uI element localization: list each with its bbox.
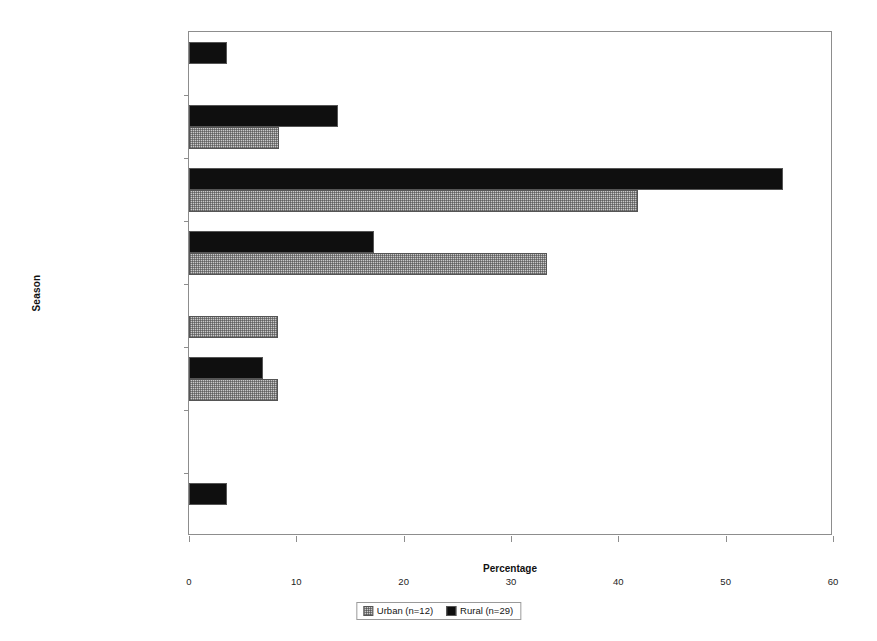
bar-urban: [189, 379, 278, 401]
x-axis-title: Percentage: [188, 563, 832, 574]
x-axis-tick: [618, 536, 619, 542]
category-row: Fall: [189, 158, 831, 221]
bar-urban: [189, 253, 547, 275]
y-axis-title: Season: [31, 276, 42, 312]
category-row: Late fall/early winter: [189, 221, 831, 284]
x-axis-tick: [296, 536, 297, 542]
plot-area: SummerLate summer/early fallFallLate fal…: [188, 31, 832, 535]
category-row: Spring: [189, 410, 831, 473]
bar-chart-figure: Season SummerLate summer/early fallFallL…: [0, 0, 877, 641]
bar-urban: [189, 127, 279, 149]
bar-rural: [189, 168, 783, 190]
category-row: Late summer/early fall: [189, 95, 831, 158]
bar-rural: [189, 105, 338, 127]
bar-urban: [189, 316, 278, 338]
x-axis-tick-label: 20: [384, 576, 424, 587]
x-axis-tick: [404, 536, 405, 542]
legend-item-rural: Rural (n=29): [446, 606, 513, 616]
legend-label-rural: Rural (n=29): [460, 606, 513, 616]
x-axis-tick-label: 10: [276, 576, 316, 587]
rural-black-swatch: [446, 606, 456, 616]
legend-label-urban: Urban (n=12): [377, 606, 433, 616]
x-axis-tick-label: 40: [598, 576, 638, 587]
bar-rural: [189, 42, 227, 64]
bar-rural: [189, 231, 374, 253]
urban-hatch-swatch: [363, 606, 373, 616]
chart-legend: Urban (n=12) Rural (n=29): [356, 602, 521, 620]
x-axis-tick-label: 60: [813, 576, 853, 587]
category-row: Summer: [189, 32, 831, 95]
x-axis-tick-label: 30: [491, 576, 531, 587]
x-axis-tick-label: 0: [169, 576, 209, 587]
x-axis-tick: [726, 536, 727, 542]
x-axis-tick: [511, 536, 512, 542]
bar-urban: [189, 190, 638, 212]
bar-rural: [189, 483, 227, 505]
legend-item-urban: Urban (n=12): [363, 606, 433, 616]
x-axis-tick: [189, 536, 190, 542]
category-row: Late spring/early summer: [189, 473, 831, 536]
category-row: Winter: [189, 284, 831, 347]
x-axis-tick: [833, 536, 834, 542]
bar-rural: [189, 357, 263, 379]
x-axis-tick-label: 50: [706, 576, 746, 587]
category-row: Late winter/early spring: [189, 347, 831, 410]
